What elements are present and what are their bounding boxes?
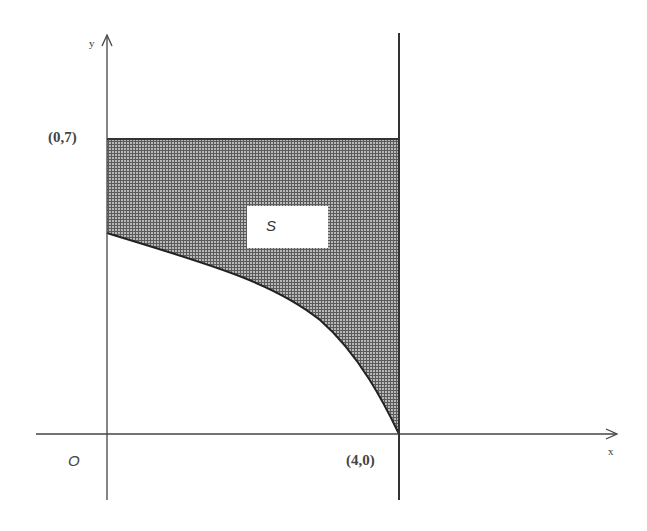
region-diagram	[0, 0, 647, 531]
point-label-4-0: (4,0)	[346, 452, 375, 469]
origin-label: O	[68, 452, 80, 469]
shaded-region-s	[107, 139, 399, 434]
region-label-box: S	[247, 206, 328, 248]
region-label: S	[266, 217, 276, 234]
y-axis-label: y	[89, 37, 95, 49]
point-label-0-7: (0,7)	[48, 129, 77, 146]
x-axis-label: x	[608, 445, 614, 457]
